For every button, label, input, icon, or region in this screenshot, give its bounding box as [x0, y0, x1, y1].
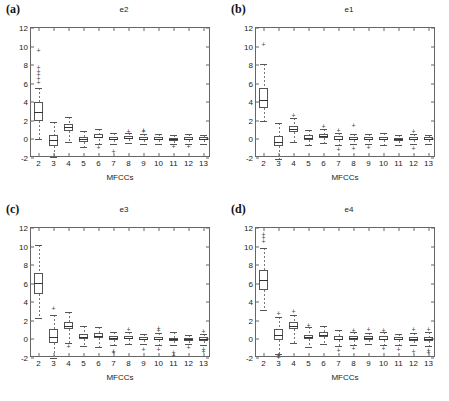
y-axis-tick-label: 10: [244, 42, 256, 51]
y-axis-tick-label: 2: [24, 316, 31, 325]
whisker-cap-lower: [200, 144, 207, 145]
y-axis-tick-label: 10: [19, 242, 31, 251]
boxplot-series: +++: [31, 228, 211, 358]
y-axis-tick-label: 6: [24, 79, 31, 88]
y-axis-tick-label: -2: [246, 154, 256, 163]
x-axis-label: MFCCs: [255, 173, 435, 182]
panel-a: (a)e2121086420-22345678910111213++++++++…: [0, 0, 224, 200]
y-axis-tick-label: 2: [249, 316, 256, 325]
x-axis-label: MFCCs: [255, 373, 435, 382]
y-axis-tick-label: 8: [249, 261, 256, 270]
y-axis-tick-label: 12: [19, 224, 31, 233]
whisker-dash: [204, 341, 205, 343]
y-axis-tick-label: 4: [24, 298, 31, 307]
panel-title: e2: [0, 5, 224, 14]
y-axis-tick-label: 8: [249, 61, 256, 70]
panel-title-text: e2: [120, 5, 129, 14]
y-axis-tick-label: 6: [24, 279, 31, 288]
median-line: [199, 339, 208, 340]
whisker-dash: [204, 140, 205, 142]
whisker-cap-upper: [425, 135, 432, 136]
y-axis-tick-label: 2: [24, 116, 31, 125]
plot-area: 121086420-22345678910111213+++++++++++++: [30, 27, 210, 157]
y-axis-tick-label: 10: [19, 42, 31, 51]
outlier-marker: +: [201, 347, 205, 354]
whisker-dash: [429, 341, 430, 343]
panel-title-text: e4: [345, 205, 354, 214]
whisker-cap-lower: [275, 159, 282, 160]
y-axis-tick-label: 10: [244, 242, 256, 251]
y-axis-tick-label: 4: [24, 98, 31, 107]
x-axis-label: MFCCs: [30, 373, 210, 382]
panel-title: e4: [225, 205, 449, 214]
y-axis-tick-label: 12: [19, 24, 31, 33]
panel-d: (d)e4121086420-22345678910111213++++++++…: [225, 200, 449, 400]
y-axis-tick-label: 4: [249, 98, 256, 107]
whisker-cap-lower: [50, 358, 57, 359]
panel-title-text: e3: [120, 205, 129, 214]
y-axis-tick-label: 8: [24, 261, 31, 270]
y-axis-tick-label: -2: [21, 354, 31, 363]
plot-area: 121086420-22345678910111213+++++++++++++…: [30, 227, 210, 357]
median-line: [424, 339, 433, 340]
median-line: [199, 139, 208, 140]
median-line: [424, 139, 433, 140]
y-axis-tick-label: 4: [249, 298, 256, 307]
whisker-cap-upper: [200, 135, 207, 136]
y-axis-tick-label: 12: [244, 24, 256, 33]
panel-b: (b)e1121086420-22345678910111213++++++++…: [225, 0, 449, 200]
panel-title-text: e1: [345, 5, 354, 14]
y-axis-tick-label: -2: [21, 154, 31, 163]
y-axis-tick-label: 0: [24, 335, 31, 344]
outlier-marker: +: [426, 326, 430, 333]
whisker-dash: [429, 140, 430, 142]
panel-title: e3: [0, 205, 224, 214]
boxplot-series: [256, 28, 436, 158]
y-axis-tick-label: 0: [24, 135, 31, 144]
plot-area: 121086420-22345678910111213+++++++++++++…: [255, 227, 435, 357]
boxplot-series: +++: [256, 228, 436, 358]
panel-c: (c)e3121086420-22345678910111213++++++++…: [0, 200, 224, 400]
y-axis-tick-label: 0: [249, 335, 256, 344]
x-axis-label: MFCCs: [30, 173, 210, 182]
y-axis-tick-label: -2: [246, 354, 256, 363]
y-axis-tick-label: 8: [24, 61, 31, 70]
panel-title: e1: [225, 5, 449, 14]
outlier-marker: +: [201, 327, 205, 334]
whisker-cap-lower: [425, 144, 432, 145]
y-axis-tick-label: 2: [249, 116, 256, 125]
plot-area: 121086420-22345678910111213++++++++++: [255, 27, 435, 157]
boxplot-series: [31, 28, 211, 158]
boxplot-figure: (a)e2121086420-22345678910111213++++++++…: [0, 0, 449, 401]
outlier-marker: +: [426, 349, 430, 356]
y-axis-tick-label: 0: [249, 135, 256, 144]
y-axis-tick-label: 12: [244, 224, 256, 233]
y-axis-tick-label: 6: [249, 279, 256, 288]
y-axis-tick-label: 6: [249, 79, 256, 88]
